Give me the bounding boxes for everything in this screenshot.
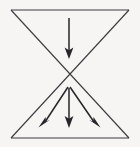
diagram-canvas bbox=[0, 0, 140, 147]
bowtie-force-diagram bbox=[0, 0, 140, 147]
lower-left-arrow-shaft bbox=[45, 87, 68, 122]
lower-left-arrow bbox=[39, 87, 69, 128]
lower-right-arrow-shaft bbox=[70, 87, 94, 122]
lower-right-arrow bbox=[70, 87, 101, 128]
lower-down-arrow bbox=[65, 88, 74, 128]
upper-down-arrow bbox=[65, 18, 74, 59]
lower-left-arrow-head-icon bbox=[39, 117, 50, 127]
